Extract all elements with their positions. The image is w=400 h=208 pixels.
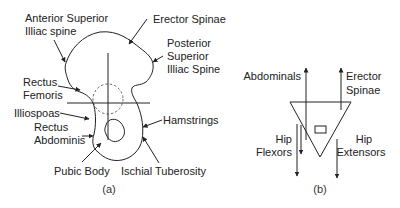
center-rect bbox=[315, 126, 326, 133]
label-psis-2: Superior bbox=[167, 50, 209, 62]
label-hip-extensors-1: Hip bbox=[356, 133, 373, 145]
label-hip-extensors-2: Extensors bbox=[337, 146, 386, 158]
label-erector-2: Spinae bbox=[346, 84, 380, 96]
hamstrings-pointer bbox=[143, 120, 162, 127]
label-erector-spinae: Erector Spinae bbox=[153, 13, 226, 25]
caption-a: (a) bbox=[102, 183, 115, 195]
label-rectus-femoris-2: Femoris bbox=[23, 89, 63, 101]
panel-a: Anterior Superior Illiac spine Erector S… bbox=[14, 12, 226, 195]
label-hamstrings: Hamstrings bbox=[163, 114, 219, 126]
label-asis-1: Anterior Superior bbox=[25, 12, 108, 24]
psis-pointer bbox=[153, 56, 163, 62]
label-rectus-abdominis-2: Abdominis bbox=[34, 134, 86, 146]
label-asis-2: Illiac spine bbox=[25, 25, 76, 37]
label-psis-1: Posterior bbox=[167, 37, 211, 49]
illiospoas-pointer bbox=[60, 113, 89, 119]
erector-pointer bbox=[129, 19, 147, 44]
label-hip-flexors-1: Hip bbox=[275, 133, 292, 145]
pelvis-muscle-diagram: Anterior Superior Illiac spine Erector S… bbox=[0, 0, 400, 208]
label-erector-1: Erector bbox=[346, 70, 382, 82]
label-psis-3: Illiac Spine bbox=[167, 63, 220, 75]
label-hip-flexors-2: Flexors bbox=[256, 146, 293, 158]
label-rectus-femoris-1: Rectus bbox=[23, 76, 58, 88]
label-abdominals: Abdominals bbox=[244, 70, 302, 82]
asis-pointer bbox=[54, 40, 65, 62]
panel-b: Abdominals Erector Spinae Hip Flexors Hi… bbox=[244, 68, 386, 195]
label-rectus-abdominis-1: Rectus bbox=[34, 121, 69, 133]
label-pubic-body: Pubic Body bbox=[54, 165, 110, 177]
label-ischial-tuberosity: Ischial Tuberosity bbox=[121, 165, 206, 177]
ischial-pointer bbox=[143, 137, 159, 163]
label-illiospoas: Illiospoas bbox=[14, 107, 60, 119]
caption-b: (b) bbox=[313, 183, 326, 195]
